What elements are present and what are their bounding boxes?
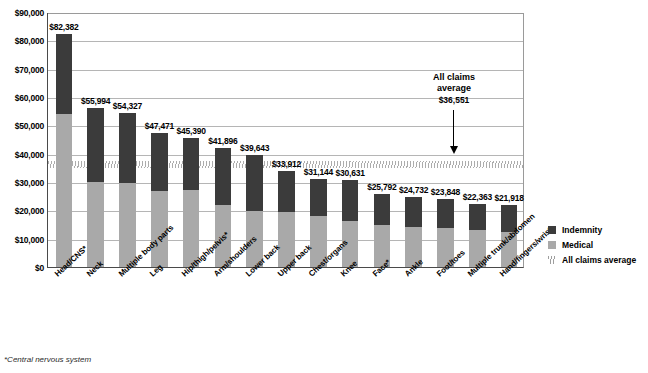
bar-segment-indemnity (183, 138, 200, 190)
bar-value-label: $21,918 (494, 193, 523, 203)
bar-group[interactable]: $31,144 (310, 179, 327, 267)
legend-item[interactable]: Medical (548, 237, 636, 252)
y-axis-tick-label: $70,000 (0, 65, 44, 75)
bar-value-label: $23,848 (431, 187, 460, 197)
bar-segment-indemnity (437, 199, 454, 228)
y-axis-tick-label: $20,000 (0, 206, 44, 216)
gridline (48, 13, 523, 14)
bar-chart: $90,000$80,000$70,000$60,000$50,000$40,0… (0, 0, 648, 373)
bar-group[interactable]: $54,327 (119, 113, 136, 267)
bar-segment-medical (56, 114, 73, 267)
y-axis-tick-label: $30,000 (0, 178, 44, 188)
bar-value-label: $22,363 (463, 192, 492, 202)
bar-segment-indemnity (87, 108, 104, 182)
bar-value-label: $30,631 (335, 168, 364, 178)
bar-group[interactable]: $45,390 (183, 138, 200, 267)
annotation-line-1: All claims (433, 72, 475, 82)
bar-segment-indemnity (310, 179, 327, 217)
bar-value-label: $39,643 (240, 143, 269, 153)
bar-segment-indemnity (215, 148, 232, 204)
bar-value-label: $45,390 (176, 126, 205, 136)
y-axis-tick-label: $60,000 (0, 93, 44, 103)
bar-value-label: $82,382 (49, 22, 78, 32)
bar-segment-indemnity (246, 155, 263, 211)
down-arrow-icon (453, 110, 455, 155)
bar-segment-indemnity (119, 113, 136, 183)
annotation-line-2: average (437, 83, 471, 93)
bar-value-label: $54,327 (113, 101, 142, 111)
bar-group[interactable]: $55,994 (87, 108, 104, 267)
bar-value-label: $55,994 (81, 96, 110, 106)
bar-value-label: $41,896 (208, 136, 237, 146)
chart-legend: IndemnityMedicalAll claims average (548, 222, 636, 267)
legend-swatch-indemnity (548, 226, 556, 234)
legend-swatch-medical (548, 241, 556, 249)
gridline (48, 41, 523, 42)
bar-value-label: $31,144 (304, 167, 333, 177)
footnote: *Central nervous system (4, 355, 91, 364)
y-axis-tick-label: $10,000 (0, 235, 44, 245)
y-axis-tick-label: $40,000 (0, 150, 44, 160)
bar-segment-indemnity (56, 34, 73, 114)
bar-group[interactable]: $82,382 (56, 34, 73, 267)
legend-label: All claims average (562, 255, 636, 265)
all-claims-average-annotation: All claims average $36,551 (396, 72, 512, 106)
gridline (48, 70, 523, 71)
bar-group[interactable]: $24,732 (405, 197, 422, 267)
bar-group[interactable]: $30,631 (342, 180, 359, 267)
bar-group[interactable]: $33,912 (278, 171, 295, 267)
bar-segment-medical (119, 183, 136, 267)
y-axis-tick-label: $80,000 (0, 36, 44, 46)
bar-group[interactable]: $39,643 (246, 155, 263, 267)
bar-segment-indemnity (151, 133, 168, 191)
bar-value-label: $33,912 (272, 159, 301, 169)
bar-value-label: $25,792 (367, 182, 396, 192)
y-axis-tick-label: $0 (0, 263, 44, 273)
annotation-value: $36,551 (396, 95, 512, 106)
legend-swatch-average (548, 256, 556, 264)
legend-label: Medical (562, 240, 593, 250)
bar-value-label: $24,732 (399, 185, 428, 195)
y-axis-tick-label: $90,000 (0, 8, 44, 18)
bar-segment-medical (87, 182, 104, 267)
legend-item[interactable]: All claims average (548, 252, 636, 267)
y-axis-tick-label: $50,000 (0, 121, 44, 131)
bar-group[interactable]: $25,792 (374, 194, 391, 267)
bar-segment-indemnity (342, 180, 359, 221)
bar-segment-indemnity (374, 194, 391, 225)
bar-segment-indemnity (405, 197, 422, 227)
bar-segment-indemnity (278, 171, 295, 212)
bar-segment-indemnity (469, 204, 486, 230)
legend-label: Indemnity (562, 225, 602, 235)
legend-item[interactable]: Indemnity (548, 222, 636, 237)
bar-value-label: $47,471 (145, 121, 174, 131)
